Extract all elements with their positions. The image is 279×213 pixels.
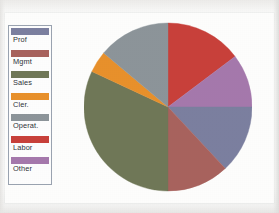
legend-item-label: Cler.: [11, 100, 49, 109]
pie-chart-svg: [84, 18, 252, 196]
legend-color-swatch: [11, 50, 49, 57]
legend-item: Mgmt: [11, 50, 49, 72]
legend-color-swatch: [11, 136, 49, 143]
legend-item: Other: [11, 157, 49, 179]
legend-color-swatch: [11, 157, 49, 164]
legend-item: Prof: [11, 28, 49, 50]
legend-item: Sales: [11, 71, 49, 93]
legend-item-label: Prof: [11, 35, 49, 44]
pie-chart: [84, 18, 252, 196]
legend-item-label: Other: [11, 164, 49, 173]
legend-item: Cler.: [11, 93, 49, 115]
legend-color-swatch: [11, 114, 49, 121]
legend-item: Labor: [11, 136, 49, 158]
legend-color-swatch: [11, 28, 49, 35]
chart-legend: ProfMgmtSalesCler.Operat.LaborOther: [8, 25, 52, 185]
legend-color-swatch: [11, 71, 49, 78]
legend-item-label: Sales: [11, 78, 49, 87]
legend-item-label: Operat.: [11, 121, 49, 130]
legend-item-label: Mgmt: [11, 57, 49, 66]
pie-slice-group: [84, 23, 252, 191]
legend-color-swatch: [11, 93, 49, 100]
legend-item-label: Labor: [11, 143, 49, 152]
legend-item: Operat.: [11, 114, 49, 136]
